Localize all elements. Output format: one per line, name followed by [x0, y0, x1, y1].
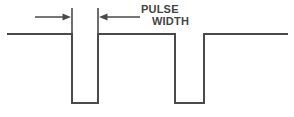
arrow-left-head-icon	[99, 14, 108, 21]
pulse-width-label-line-1: PULSE	[141, 4, 203, 16]
arrow-right-head-icon	[63, 14, 72, 21]
pulse-train-waveform	[8, 34, 287, 103]
pulse-width-label-line-2: WIDTH	[141, 16, 203, 28]
pulse-width-label: PULSE WIDTH	[141, 4, 203, 27]
pulse-width-diagram: PULSE WIDTH	[0, 0, 294, 117]
